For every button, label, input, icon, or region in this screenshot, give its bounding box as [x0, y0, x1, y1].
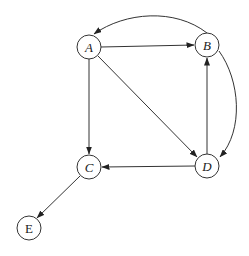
node-b: B — [195, 33, 219, 57]
node-e-label: E — [25, 221, 33, 236]
node-d-label: D — [201, 159, 212, 174]
node-c-label: C — [85, 160, 94, 175]
edge-a-to-d — [98, 56, 197, 157]
edge-b-to-a — [94, 16, 207, 34]
edge-d-to-c — [102, 166, 195, 167]
node-a-label: A — [84, 40, 93, 55]
graph-canvas: A B C D E — [0, 0, 249, 256]
node-c: C — [77, 155, 101, 179]
node-b-label: B — [203, 38, 211, 53]
edge-a-to-b — [101, 45, 194, 47]
node-a: A — [77, 35, 101, 59]
node-e: E — [17, 216, 41, 240]
node-d: D — [195, 154, 219, 178]
edge-b-to-d — [219, 51, 236, 157]
edge-c-to-e — [37, 176, 80, 218]
